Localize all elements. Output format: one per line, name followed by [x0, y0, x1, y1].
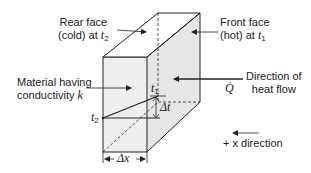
- slab-front-face: [103, 57, 147, 152]
- t2-label: t2: [91, 111, 99, 127]
- q-dot-symbol: Q̇: [225, 82, 234, 95]
- material-label: Material having conductivity k: [17, 76, 92, 102]
- heat-flow-label: Direction of heat flow: [246, 70, 302, 96]
- front-face-label: Front face (hot) at t1: [220, 16, 270, 45]
- rear-face-label: Rear face (cold) at t2: [58, 16, 109, 45]
- x-direction-label: + x direction: [223, 137, 283, 150]
- delta-t-label: Δt: [160, 101, 170, 114]
- t1-label: t1: [151, 82, 159, 98]
- delta-x-label: Δx: [117, 152, 129, 165]
